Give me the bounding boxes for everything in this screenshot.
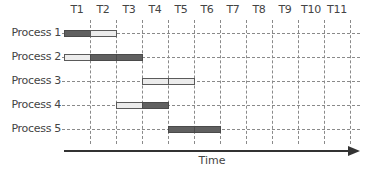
vertical-gridline [246,20,247,144]
process-4-segment-t3-light [116,102,143,109]
process-3-segment-t4-light [142,78,169,85]
vertical-gridline [350,20,351,144]
process-1-segment-t2-light [90,30,117,37]
process-2-segment-t3-dark [116,54,143,61]
vertical-gridline [272,20,273,144]
time-axis-line [64,150,350,152]
vertical-gridline [298,20,299,144]
column-header-t1: T1 [70,3,83,16]
column-header-t7: T7 [226,3,239,16]
vertical-gridline [90,20,91,144]
column-header-t4: T4 [148,3,161,16]
column-header-t10: T10 [301,3,321,16]
column-header-t6: T6 [200,3,213,16]
process-1-segment-t1-dark [64,30,91,37]
process-4-segment-t4-dark [142,102,169,109]
time-axis-label: Time [199,154,226,167]
row-label-process-1: Process 1 [0,26,61,39]
vertical-gridline [324,20,325,144]
row-label-process-2: Process 2 [0,50,61,63]
process-2-segment-t1-light [64,54,91,61]
process-2-segment-t2-dark [90,54,117,61]
process-timeline-diagram: T1T2T3T4T5T6T7T8T9T10T11Process 1Process… [0,0,376,170]
vertical-gridline [116,20,117,144]
row-label-process-3: Process 3 [0,74,61,87]
column-header-t5: T5 [174,3,187,16]
column-header-t9: T9 [278,3,291,16]
column-header-t2: T2 [96,3,109,16]
row-label-process-5: Process 5 [0,122,61,135]
row-label-process-4: Process 4 [0,98,61,111]
column-header-t11: T11 [327,3,347,16]
column-header-t8: T8 [252,3,265,16]
process-5-segment-t5-dark [168,126,195,133]
arrow-right-icon [348,146,360,156]
process-3-segment-t5-light [168,78,195,85]
column-header-t3: T3 [122,3,135,16]
horizontal-gridline [62,105,360,106]
process-5-segment-t6-dark [194,126,221,133]
horizontal-gridline [62,81,360,82]
